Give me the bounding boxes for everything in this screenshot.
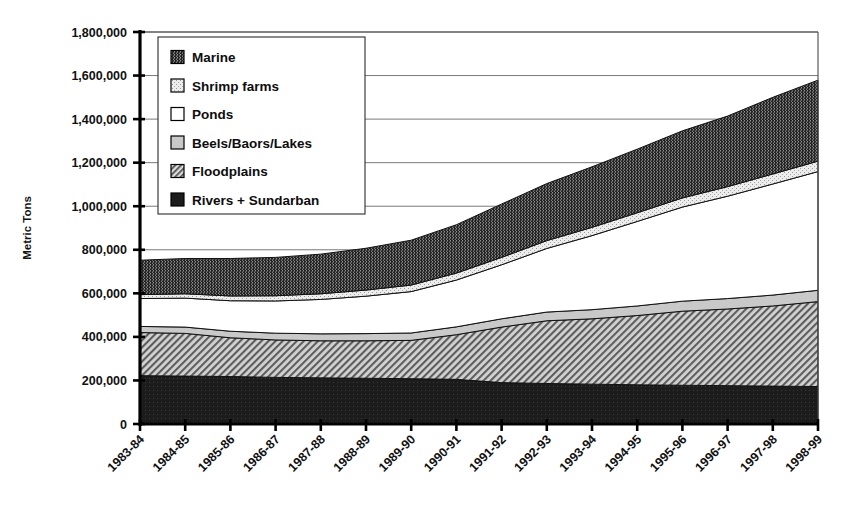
- y-tick-label: 200,000: [82, 374, 127, 388]
- y-tick-label: 0: [120, 418, 127, 432]
- legend-label-beels-baors-lakes: Beels/Baors/Lakes: [192, 136, 312, 151]
- chart-legend: MarineShrimp farmsPondsBeels/Baors/Lakes…: [158, 37, 365, 214]
- y-tick-label: 1,200,000: [71, 156, 127, 170]
- legend-label-shrimp-farms: Shrimp farms: [192, 79, 279, 94]
- legend-swatch-beels-baors-lakes: [171, 136, 184, 149]
- chart-container: 0200,000400,000600,000800,0001,000,0001,…: [0, 0, 843, 521]
- legend-label-marine: Marine: [192, 50, 236, 65]
- legend-swatch-rivers-sundarban: [171, 193, 184, 206]
- y-tick-label: 1,400,000: [71, 113, 127, 127]
- y-tick-label: 1,000,000: [71, 200, 127, 214]
- legend-swatch-shrimp-farms: [171, 79, 184, 92]
- stacked-area-chart: 0200,000400,000600,000800,0001,000,0001,…: [0, 0, 843, 521]
- legend-swatch-ponds: [171, 108, 184, 121]
- y-axis-title: Metric Tons: [21, 196, 33, 260]
- legend-label-rivers-sundarban: Rivers + Sundarban: [192, 193, 319, 208]
- y-tick-label: 600,000: [82, 287, 127, 301]
- y-tick-label: 800,000: [82, 243, 127, 257]
- legend-swatch-marine: [171, 51, 184, 64]
- y-tick-label: 400,000: [82, 330, 127, 344]
- legend-label-ponds: Ponds: [192, 107, 233, 122]
- legend-label-floodplains: Floodplains: [192, 164, 268, 179]
- y-tick-label: 1,600,000: [71, 69, 127, 83]
- legend-swatch-floodplains: [171, 165, 184, 178]
- y-tick-label: 1,800,000: [71, 26, 127, 40]
- legend-background: [158, 37, 365, 214]
